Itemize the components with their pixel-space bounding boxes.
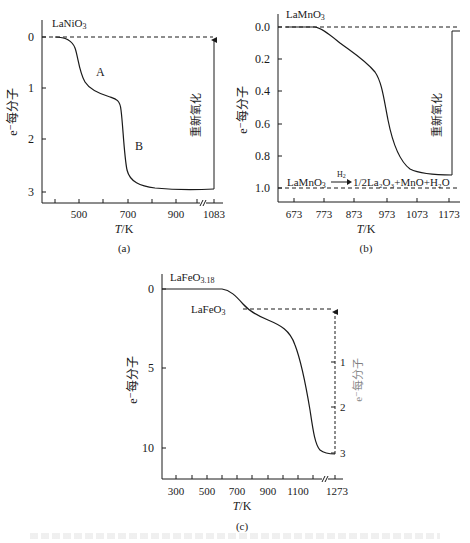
chart-b-xtick-773: 773 xyxy=(316,208,333,220)
chart-c-ytick-10: 10 xyxy=(142,441,154,455)
chart-b: 0.0 0.2 0.4 0.6 0.8 1.0 673 773 873 973 … xyxy=(235,8,460,255)
chart-c-axis-break-icon xyxy=(322,476,328,482)
chart-a-title: LaNiO3 xyxy=(52,17,87,31)
chart-a-xtick-500: 500 xyxy=(71,208,88,220)
chart-a-xtick-900: 900 xyxy=(168,208,185,220)
chart-a-xtick-700: 700 xyxy=(120,208,137,220)
chart-c-xtick-500: 500 xyxy=(199,485,216,497)
chart-c-ylabel: e⁻每分子 xyxy=(125,356,140,404)
chart-c-right-ytick-3: 3 xyxy=(340,447,346,459)
chart-a-xlabel: T/K xyxy=(115,222,134,236)
chart-b-y-ticks xyxy=(278,27,282,188)
chart-c: 0 5 10 300 500 700 900 1100 1273 T/K e⁻每… xyxy=(125,271,364,533)
chart-a-y-ticks xyxy=(42,37,46,192)
chart-a: 0 1 2 3 500 700 900 1083 T/K e⁻每分子 LaNiO… xyxy=(5,17,226,255)
figure-canvas: 0 1 2 3 500 700 900 1083 T/K e⁻每分子 LaNiO… xyxy=(0,0,470,543)
chart-a-label-B: B xyxy=(135,139,143,153)
chart-c-ytick-5: 5 xyxy=(148,361,154,375)
chart-b-reoxidation-line xyxy=(452,31,460,175)
chart-c-panel-label: (c) xyxy=(236,520,249,533)
chart-a-panel-label: (a) xyxy=(118,242,131,255)
chart-b-reaction-arrowhead-icon xyxy=(347,179,352,185)
chart-a-label-A: A xyxy=(96,65,105,79)
chart-a-xtick-1083: 1083 xyxy=(203,208,226,220)
chart-c-xtick-300: 300 xyxy=(168,485,185,497)
chart-b-ylabel: e⁻每分子 xyxy=(235,86,250,134)
chart-c-y-ticks xyxy=(162,289,166,448)
chart-a-ytick-1: 1 xyxy=(28,81,34,95)
chart-c-xtick-1273: 1273 xyxy=(326,485,349,497)
chart-b-title: LaMnO3 xyxy=(286,8,325,22)
chart-b-ytick-3: 0.6 xyxy=(255,117,270,131)
chart-c-title: LaFeO3.18 xyxy=(170,271,215,285)
chart-a-axis-break-icon xyxy=(200,200,206,206)
chart-a-ytick-2: 2 xyxy=(28,132,34,146)
chart-c-right-ytick-2: 2 xyxy=(340,401,346,413)
chart-c-inner-label: LaFeO3 xyxy=(191,303,226,317)
chart-c-xlabel: T/K xyxy=(233,499,252,513)
chart-b-ytick-1: 0.2 xyxy=(255,52,270,66)
chart-b-curve xyxy=(286,27,452,175)
chart-b-reaction-catalyst: H2 xyxy=(337,170,346,179)
chart-b-xlabel: T/K xyxy=(357,222,376,236)
chart-b-ytick-5: 1.0 xyxy=(255,181,270,195)
chart-b-reaction-products: 1/2La₂O₃+MnO+H₂O xyxy=(353,176,450,188)
chart-b-ytick-0: 0.0 xyxy=(255,20,270,34)
chart-c-x-ticks xyxy=(176,475,335,479)
chart-c-right-ytick-1: 1 xyxy=(340,356,346,368)
chart-c-right-y-ticks xyxy=(331,362,335,453)
chart-b-xtick-873: 873 xyxy=(346,208,363,220)
chart-a-x-ticks xyxy=(55,199,214,203)
figure-caption-illegible xyxy=(30,533,440,539)
chart-b-ytick-4: 0.8 xyxy=(255,149,270,163)
chart-c-xtick-900: 900 xyxy=(260,485,277,497)
chart-c-ytick-0: 0 xyxy=(148,282,154,296)
chart-c-curve xyxy=(162,289,335,454)
chart-b-xtick-973: 973 xyxy=(379,208,396,220)
chart-a-ytick-3: 3 xyxy=(28,185,34,199)
chart-b-ytick-2: 0.4 xyxy=(255,84,270,98)
chart-b-panel-label: (b) xyxy=(360,242,373,255)
chart-a-ylabel: e⁻每分子 xyxy=(5,88,20,136)
chart-a-ytick-0: 0 xyxy=(28,30,34,44)
chart-c-xtick-1100: 1100 xyxy=(287,485,309,497)
chart-b-x-ticks xyxy=(294,198,449,202)
chart-a-reoxidation-label: 重新氧化 xyxy=(189,93,202,137)
chart-b-xtick-1073: 1073 xyxy=(406,208,429,220)
chart-b-reoxidation-label: 重新氧化 xyxy=(430,93,443,137)
chart-b-reaction-reactant: LaMnO3 xyxy=(287,176,326,190)
chart-c-right-ylabel: e⁻每分子 xyxy=(351,358,364,402)
chart-c-xtick-700: 700 xyxy=(229,485,246,497)
chart-b-xtick-673: 673 xyxy=(286,208,303,220)
chart-b-xtick-1173: 1173 xyxy=(438,208,460,220)
